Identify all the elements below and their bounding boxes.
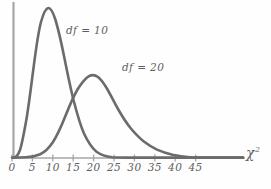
chi-square-distribution-figure: 0 5 10 15 20 25 30 35 40 45 df = 10 df =… <box>0 0 271 189</box>
x-tick-label: 0 <box>8 161 15 173</box>
series-label-df20: df = 20 <box>122 61 164 73</box>
x-tick-label: 5 <box>29 161 36 173</box>
x-tick-label: 45 <box>189 161 203 173</box>
x-tick-label: 40 <box>168 161 182 173</box>
x-tick-label: 35 <box>148 161 162 173</box>
x-axis-title: χ2 <box>246 145 260 161</box>
x-tick-label: 30 <box>127 161 141 173</box>
series-label-df10: df = 10 <box>66 24 108 36</box>
curve-df20 <box>12 75 243 157</box>
x-axis-title-base: χ <box>246 145 255 161</box>
x-tick-label: 15 <box>66 161 80 173</box>
x-tick-label: 10 <box>46 161 60 173</box>
x-tick-label: 25 <box>107 161 121 173</box>
x-tick-label: 20 <box>87 161 101 173</box>
curve-df10 <box>14 8 243 158</box>
x-axis-title-exponent: 2 <box>255 145 261 154</box>
